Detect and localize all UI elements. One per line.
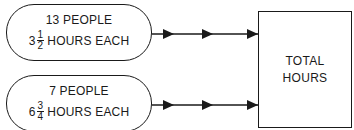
arrowhead-icon: [202, 100, 213, 110]
arrow-row-2: [152, 100, 258, 110]
arrowhead-icon: [202, 29, 213, 39]
arrowhead-icon: [247, 29, 258, 39]
total-hours-line2: HOURS: [283, 70, 328, 87]
arrowhead-icon: [163, 29, 174, 39]
arrowhead-icon: [163, 100, 174, 110]
total-hours-line1: TOTAL: [285, 53, 324, 70]
total-hours-box: TOTAL HOURS: [258, 11, 352, 128]
arrow-row-1: [152, 29, 258, 39]
arrowhead-icon: [247, 100, 258, 110]
